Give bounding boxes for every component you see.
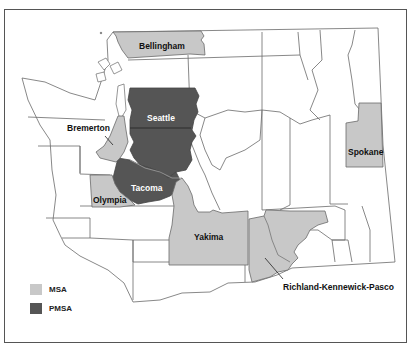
legend-label-pmsa: PMSA [49, 304, 72, 313]
legend: MSA PMSA [30, 281, 72, 319]
island-4 [100, 32, 102, 34]
label-bellingham: Bellingham [139, 41, 185, 51]
pmsa-swatch [30, 303, 42, 314]
label-olympia: Olympia [93, 195, 127, 205]
label-seattle: Seattle [147, 113, 175, 123]
label-richland-kennewick-pasco: Richland-Kennewick-Pasco [283, 282, 394, 292]
legend-label-msa: MSA [49, 285, 67, 294]
legend-item-msa: MSA [30, 281, 72, 297]
label-yakima: Yakima [194, 232, 224, 242]
label-bremerton: Bremerton [67, 123, 110, 133]
island-3 [96, 72, 106, 82]
label-tacoma: Tacoma [131, 183, 163, 193]
label-spokane: Spokane [348, 147, 384, 157]
legend-item-pmsa: PMSA [30, 300, 72, 316]
msa-swatch [30, 284, 42, 295]
